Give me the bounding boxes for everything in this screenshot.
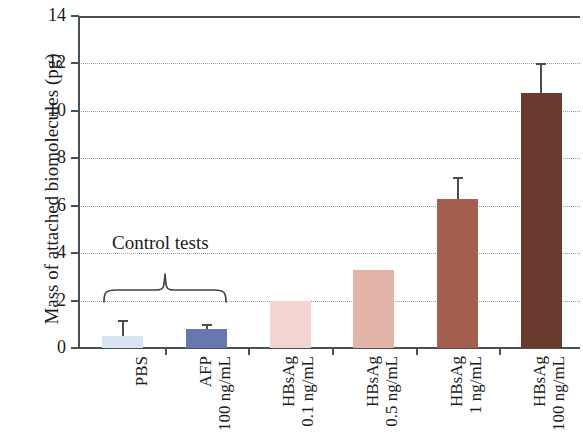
x-axis-category-label: HBsAg0.1 ng/mL [279, 356, 317, 444]
bar [437, 199, 478, 348]
error-bar-cap [536, 63, 546, 65]
category-label-line2: 0.5 ng/mL [382, 356, 401, 444]
x-axis-tick [499, 348, 501, 355]
bar [353, 270, 394, 348]
x-axis-tick [332, 348, 334, 355]
x-axis-category-label: HBsAg100 ng/mL [530, 356, 568, 444]
x-axis-category-label: PBS [132, 356, 151, 444]
category-label-line2: 100 ng/mL [215, 356, 234, 444]
bar-chart-figure: Mass of attached biomolecules (pg) 02468… [0, 0, 583, 444]
x-axis-category-label: HBsAg0.5 ng/mL [363, 356, 401, 444]
x-axis-category-label: HBsAg1 ng/mL [447, 356, 485, 444]
y-axis-tick-label: 10 [20, 101, 66, 119]
category-label-line2: 1 ng/mL [466, 356, 485, 444]
error-bar [457, 177, 459, 198]
y-axis-tick-label: 12 [20, 53, 66, 71]
bar [102, 336, 143, 348]
y-axis-tick-label: 4 [20, 243, 66, 261]
error-bar [540, 63, 542, 93]
error-bar-cap [202, 324, 212, 326]
control-tests-annotation: Control tests [112, 232, 209, 254]
bar [270, 301, 311, 348]
x-axis-category-label: AFP100 ng/mL [196, 356, 234, 444]
y-axis-tick-label: 8 [20, 148, 66, 166]
bar [521, 93, 562, 348]
x-axis-tick [248, 348, 250, 355]
category-label-line1: AFP [196, 356, 215, 444]
category-label-line2: 100 ng/mL [549, 356, 568, 444]
error-bar-cap [453, 177, 463, 179]
bar [186, 329, 227, 348]
y-axis-tick-label: 14 [20, 6, 66, 24]
category-label-line1: HBsAg [447, 356, 466, 444]
error-bar [122, 320, 124, 337]
y-axis-tick-label: 0 [20, 338, 66, 356]
y-axis-tick-label: 6 [20, 196, 66, 214]
category-label-line1: PBS [132, 356, 151, 444]
y-axis-tick-label: 2 [20, 291, 66, 309]
error-bar-cap [118, 320, 128, 322]
category-label-line1: HBsAg [530, 356, 549, 444]
x-axis-tick [416, 348, 418, 355]
category-label-line2: 0.1 ng/mL [298, 356, 317, 444]
x-axis-line [78, 347, 580, 349]
control-tests-brace-icon [100, 268, 230, 304]
x-axis-tick [165, 348, 167, 355]
category-label-line1: HBsAg [279, 356, 298, 444]
category-label-line1: HBsAg [363, 356, 382, 444]
